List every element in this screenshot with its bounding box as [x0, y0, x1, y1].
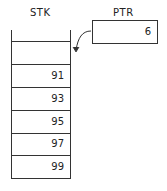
stack-cell-3: 95	[44, 116, 64, 127]
pointer-value: 6	[131, 26, 151, 37]
stack-cell-2: 93	[44, 93, 64, 104]
stack-cell-4: 97	[44, 138, 64, 149]
stack-cell-1: 91	[44, 70, 64, 81]
stack-cell-5: 99	[44, 161, 64, 172]
arrow-head-icon	[73, 47, 79, 52]
